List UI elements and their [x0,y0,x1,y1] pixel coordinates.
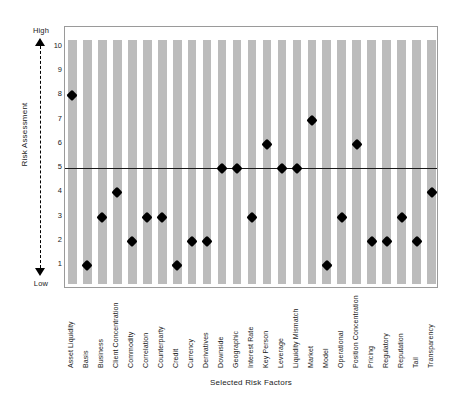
data-point [112,187,123,198]
x-axis-category-label: Transparency [427,324,434,368]
x-axis-category-label: Client Concentration [112,303,119,368]
x-axis-category-label: Pricing [367,346,374,368]
x-axis-category-label: Commodity [127,332,134,368]
y-axis-title: Risk Assessment [20,55,29,215]
x-axis-category-label: Tail [412,357,419,368]
y-axis-tick-label: 6 [44,139,62,147]
data-point [82,260,93,271]
data-point [157,211,168,222]
x-axis-category-label: Currency [187,339,194,368]
x-axis-title: Selected Risk Factors [64,378,438,387]
x-axis-category-label: Liquidity Mismatch [292,309,299,368]
x-axis-category-label: Market [307,346,314,368]
x-axis-category-labels: Asset LiquidityBasisBusinessClient Conce… [64,290,438,368]
data-point [366,235,377,246]
data-point [321,260,332,271]
x-axis-category-label: Counterparty [157,326,164,368]
data-point [217,163,228,174]
y-axis-tick-label: 9 [44,66,62,74]
plot-area [64,26,438,288]
data-point [142,211,153,222]
y-axis-tick-labels: 10987654321 [44,26,62,288]
x-axis-category-label: Model [322,348,329,368]
x-axis-category-label: Reputation [397,333,404,368]
x-axis-category-label: Regulatory [382,333,389,368]
data-point [232,163,243,174]
data-point [351,139,362,150]
x-axis-category-label: Basis [82,350,89,368]
x-axis-category-label: Position Concentration [352,295,359,368]
data-point [97,211,108,222]
data-points-layer [65,27,437,287]
data-point [381,235,392,246]
x-axis-category-label: Leverage [277,338,284,368]
data-point [202,235,213,246]
y-axis-tick-label: 7 [44,115,62,123]
data-point [127,235,138,246]
data-point [277,163,288,174]
y-axis-tick-label: 4 [44,188,62,196]
data-point [396,211,407,222]
data-point [307,114,318,125]
data-point [426,187,437,198]
x-axis-category-label: Downside [217,336,224,368]
x-axis-category-label: Correlation [142,333,149,368]
data-point [292,163,303,174]
y-axis-tick-label: 1 [44,260,62,268]
risk-assessment-chart: High Low Risk Assessment 10987654321 Ass… [0,0,460,403]
data-point [172,260,183,271]
x-axis-category-label: Key Person [262,331,269,368]
y-axis-tick-label: 5 [44,163,62,171]
data-point [411,235,422,246]
data-point [187,235,198,246]
x-axis-category-label: Asset Liquidity [67,321,74,368]
x-axis-category-label: Geographic [232,331,239,368]
data-point [67,90,78,101]
y-axis-tick-label: 3 [44,212,62,220]
x-axis-category-label: Credit [172,349,179,368]
y-axis-tick-label: 2 [44,236,62,244]
x-axis-category-label: Operational [337,331,344,368]
data-point [336,211,347,222]
x-axis-category-label: Business [97,339,104,368]
x-axis-category-label: Derivatives [202,332,209,368]
y-axis-tick-label: 8 [44,91,62,99]
y-axis-tick-label: 10 [44,42,62,50]
data-point [247,211,258,222]
direction-dashed-line [40,46,41,268]
data-point [262,139,273,150]
x-axis-category-label: Interest Rate [247,327,254,368]
